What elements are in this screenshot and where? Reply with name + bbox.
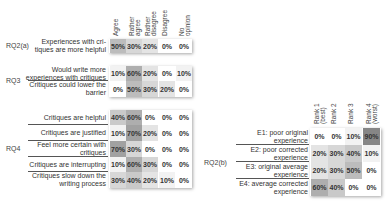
data-cell: 50% xyxy=(126,81,142,97)
data-cell: 10% xyxy=(110,125,126,141)
data-cell: 70% xyxy=(126,125,142,141)
data-cell: 30% xyxy=(328,145,345,162)
data-cell: 0% xyxy=(363,162,380,179)
data-cell: 20% xyxy=(159,81,175,97)
data-cell: 0% xyxy=(159,39,175,53)
data-cell: 0% xyxy=(159,66,175,81)
row-label: E3: original average experience xyxy=(220,163,308,179)
data-cell: 40% xyxy=(345,145,362,162)
group-label: RQ3 xyxy=(6,77,20,84)
data-cell: 0% xyxy=(176,141,192,157)
column-header: Rank 1 (best) xyxy=(314,103,326,124)
row-separator xyxy=(236,144,309,145)
column-header: Agree xyxy=(113,19,119,36)
data-cell: 10% xyxy=(110,66,126,81)
row-label: Critiques slow down the writing process xyxy=(2,172,106,188)
data-cell: 0% xyxy=(176,110,192,125)
row-separator xyxy=(28,156,108,157)
data-cell: 0% xyxy=(176,172,192,188)
data-cell: 20% xyxy=(142,66,158,81)
column-header: Rank 3 xyxy=(348,103,354,124)
data-cell: 0% xyxy=(176,39,192,53)
data-cell: 10% xyxy=(345,128,362,145)
data-cell: 0% xyxy=(159,125,175,141)
column-header: Rather disagree xyxy=(145,11,157,36)
row-separator xyxy=(28,140,108,141)
data-cell: 40% xyxy=(328,179,345,196)
data-cell: 0% xyxy=(176,125,192,141)
data-cell: 20% xyxy=(311,145,328,162)
group-label: RQ2(b) xyxy=(204,159,227,166)
data-cell: 50% xyxy=(345,162,362,179)
data-cell: 0% xyxy=(159,157,175,172)
data-cell: 30% xyxy=(126,141,142,157)
data-cell: 0% xyxy=(142,110,158,125)
data-cell: 30% xyxy=(110,172,126,188)
group-label: RQ4 xyxy=(6,145,20,152)
data-cell: 20% xyxy=(142,39,158,53)
data-cell: 40% xyxy=(126,172,142,188)
row-label: E1: poor original experience xyxy=(220,129,308,145)
data-cell: 0% xyxy=(363,179,380,196)
column-header: Rank 2 xyxy=(331,103,337,124)
data-cell: 30% xyxy=(328,162,345,179)
data-cell: 0% xyxy=(345,179,362,196)
data-cell: 0% xyxy=(110,81,126,97)
data-cell: 0% xyxy=(176,157,192,172)
data-cell: 60% xyxy=(126,157,142,172)
row-separator xyxy=(236,178,309,179)
row-label: E4: average corrected experience xyxy=(220,180,308,196)
column-header: Rather agree xyxy=(129,16,141,36)
row-label: Critiques are justified xyxy=(2,129,106,137)
column-header: No opinion xyxy=(179,15,191,36)
row-separator xyxy=(28,124,108,125)
data-cell: 0% xyxy=(159,110,175,125)
row-separator xyxy=(28,171,108,172)
column-header: Rank 4 (worst) xyxy=(366,103,378,124)
row-label: Critiques are helpful xyxy=(2,114,106,122)
data-cell: 50% xyxy=(110,39,126,53)
data-cell: 10% xyxy=(110,157,126,172)
data-cell: 0% xyxy=(311,128,328,145)
data-cell: 60% xyxy=(126,110,142,125)
data-cell: 20% xyxy=(142,125,158,141)
row-label: E2: poor corrected experience xyxy=(220,146,308,162)
data-cell: 10% xyxy=(159,172,175,188)
data-cell: 30% xyxy=(142,81,158,97)
data-cell: 0% xyxy=(159,141,175,157)
data-cell: 60% xyxy=(311,179,328,196)
data-cell: 20% xyxy=(311,162,328,179)
data-cell: 60% xyxy=(126,66,142,81)
data-cell: 40% xyxy=(110,110,126,125)
data-cell: 10% xyxy=(176,66,192,81)
data-cell: 0% xyxy=(142,141,158,157)
data-cell: 30% xyxy=(142,157,158,172)
data-cell: 90% xyxy=(363,128,380,145)
data-cell: 10% xyxy=(363,145,380,162)
data-cell: 70% xyxy=(110,141,126,157)
data-cell: 0% xyxy=(176,81,192,97)
column-header: Disagree xyxy=(162,10,168,36)
data-cell: 0% xyxy=(328,128,345,145)
row-separator xyxy=(236,161,309,162)
group-label: RQ2(a) xyxy=(6,42,29,49)
row-label: Critiques are interrupting xyxy=(2,161,106,169)
data-cell: 30% xyxy=(126,39,142,53)
row-separator xyxy=(28,80,108,81)
data-cell: 20% xyxy=(142,172,158,188)
